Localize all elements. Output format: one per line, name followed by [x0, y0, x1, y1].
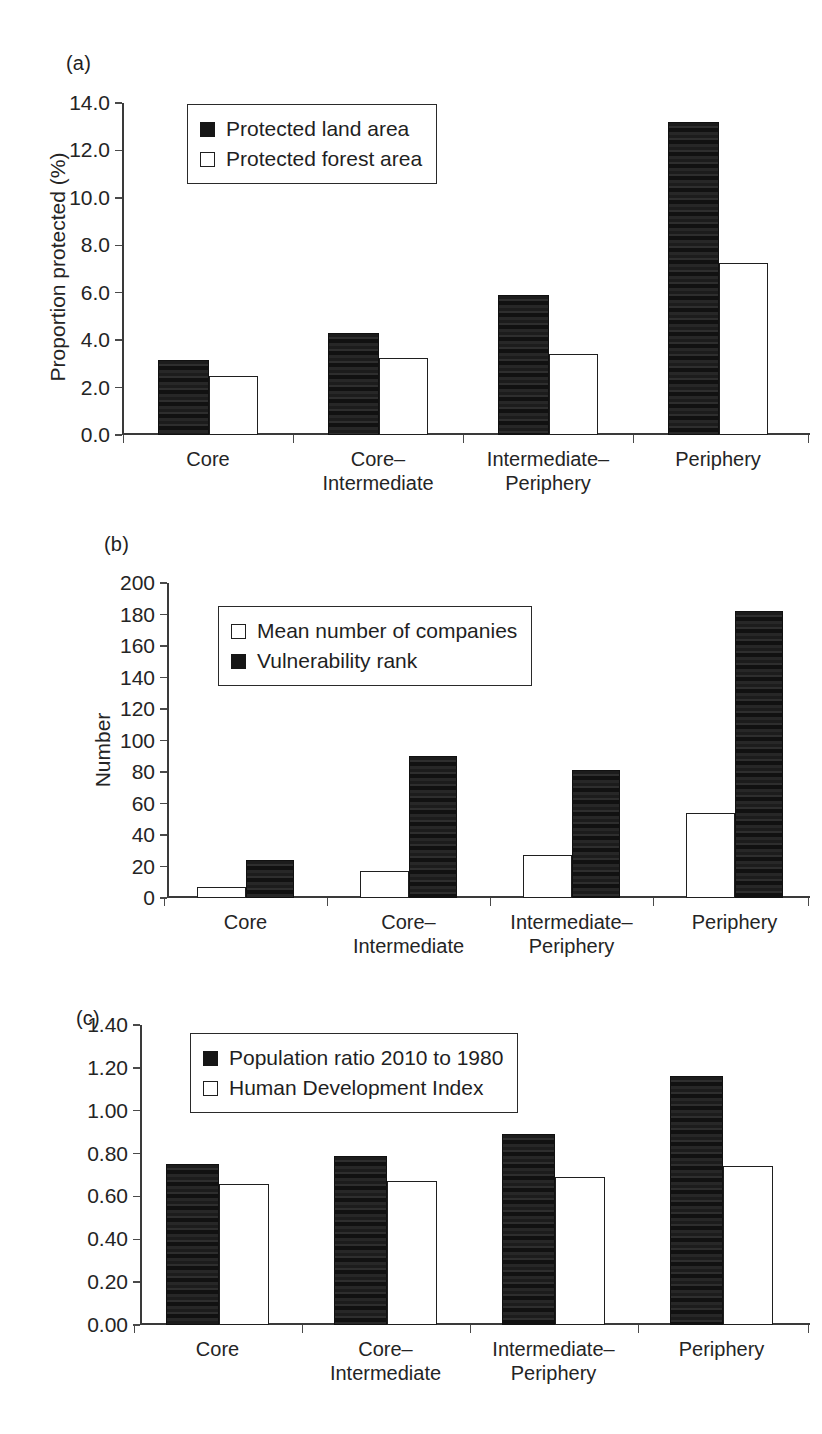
y-axis-tick — [160, 803, 167, 804]
legend-a: Protected land areaProtected forest area — [187, 104, 437, 184]
x-axis-tick — [134, 1325, 135, 1333]
x-axis-tick-end — [808, 435, 809, 443]
y-axis-tick-label: 100 — [120, 729, 155, 753]
bar-light-3 — [686, 813, 735, 898]
bar-light-2 — [523, 855, 572, 898]
bar-dark-0 — [166, 1164, 219, 1325]
bar-light-1 — [360, 871, 409, 898]
x-axis-tick — [470, 1325, 471, 1333]
y-axis-tick — [115, 245, 122, 246]
legend-label: Protected land area — [226, 117, 409, 141]
y-axis-tick — [160, 677, 167, 678]
y-axis-tick-label: 40 — [132, 823, 155, 847]
y-axis-tick-label: 0.80 — [87, 1142, 128, 1166]
y-axis-tick-label: 160 — [120, 634, 155, 658]
legend-item: Human Development Index — [203, 1073, 503, 1103]
y-axis-tick-label: 0 — [143, 886, 155, 910]
y-axis-tick — [133, 1239, 140, 1240]
y-axis-tick — [115, 102, 122, 103]
y-axis-label-b: Number — [91, 685, 115, 815]
y-axis-tick — [115, 434, 122, 435]
y-axis-tick-label: 14.0 — [69, 91, 110, 115]
y-axis-tick-label: 10.0 — [69, 186, 110, 210]
x-axis-tick — [653, 898, 654, 906]
bar-dark-3 — [668, 122, 719, 435]
bar-light-0 — [197, 887, 246, 898]
y-axis-tick — [133, 1110, 140, 1111]
bar-dark-0 — [246, 860, 294, 898]
y-axis-tick-label: 0.0 — [81, 423, 110, 447]
y-axis-label-a: Proportion protected (%) — [46, 102, 70, 432]
x-axis-category-label: Core– Intermediate — [322, 447, 433, 496]
x-axis-tick — [123, 435, 124, 443]
y-axis-tick — [133, 1196, 140, 1197]
legend-label: Protected forest area — [226, 147, 422, 171]
bar-dark-2 — [572, 770, 620, 898]
x-axis-category-label: Core– Intermediate — [353, 910, 464, 959]
bar-light-0 — [219, 1184, 269, 1325]
x-axis-tick — [164, 898, 165, 906]
bar-dark-3 — [735, 611, 783, 898]
y-axis-tick-label: 0.60 — [87, 1184, 128, 1208]
legend-label: Mean number of companies — [257, 619, 517, 643]
y-axis-tick — [115, 339, 122, 340]
bar-light-1 — [379, 358, 428, 435]
legend-c: Population ratio 2010 to 1980Human Devel… — [190, 1033, 518, 1113]
x-axis-category-label: Core– Intermediate — [330, 1337, 441, 1386]
y-axis-tick — [160, 866, 167, 867]
chart-panel-b: (b) Number 020406080100120140160180200Co… — [0, 510, 822, 980]
y-axis-tick-label: 0.00 — [87, 1313, 128, 1337]
y-axis-tick-label: 200 — [120, 571, 155, 595]
y-axis-tick — [115, 150, 122, 151]
y-axis-tick-label: 180 — [120, 603, 155, 627]
panel-label-b: (b) — [104, 533, 129, 556]
y-axis-tick — [115, 387, 122, 388]
x-axis-category-label: Periphery — [679, 1337, 765, 1361]
y-axis-tick-label: 140 — [120, 666, 155, 690]
legend-item: Vulnerability rank — [231, 646, 517, 676]
x-axis-tick — [327, 898, 328, 906]
legend-item: Protected land area — [200, 114, 422, 144]
y-axis-tick-label: 80 — [132, 760, 155, 784]
y-axis-tick — [160, 771, 167, 772]
legend-swatch-dark-icon — [203, 1051, 218, 1066]
legend-item: Mean number of companies — [231, 616, 517, 646]
y-axis-tick — [133, 1067, 140, 1068]
y-axis-line — [122, 103, 124, 435]
x-axis-category-label: Core — [196, 1337, 239, 1361]
bar-dark-1 — [328, 333, 379, 435]
y-axis-tick-label: 60 — [132, 792, 155, 816]
x-axis-tick — [490, 898, 491, 906]
x-axis-tick-end — [808, 1325, 809, 1333]
legend-swatch-light-icon — [203, 1081, 218, 1096]
bar-light-2 — [549, 354, 598, 435]
bar-dark-1 — [409, 756, 457, 898]
legend-label: Vulnerability rank — [257, 649, 417, 673]
legend-item: Population ratio 2010 to 1980 — [203, 1043, 503, 1073]
bar-light-3 — [719, 263, 768, 435]
legend-b: Mean number of companiesVulnerability ra… — [218, 606, 532, 686]
panel-label-a: (a) — [66, 52, 91, 75]
legend-swatch-light-icon — [200, 152, 215, 167]
bar-dark-0 — [158, 360, 209, 435]
x-axis-tick — [293, 435, 294, 443]
x-axis-category-label: Intermediate– Periphery — [487, 447, 609, 496]
x-axis-tick — [302, 1325, 303, 1333]
x-axis-tick — [638, 1325, 639, 1333]
y-axis-tick — [160, 708, 167, 709]
y-axis-tick-label: 1.20 — [87, 1056, 128, 1080]
x-axis-category-label: Intermediate– Periphery — [510, 910, 632, 959]
y-axis-tick-label: 12.0 — [69, 138, 110, 162]
y-axis-tick — [160, 740, 167, 741]
bar-light-2 — [555, 1177, 605, 1325]
x-axis-category-label: Intermediate– Periphery — [492, 1337, 614, 1386]
bar-dark-3 — [670, 1076, 723, 1325]
bar-dark-1 — [334, 1156, 387, 1325]
x-axis-category-label: Periphery — [675, 447, 761, 471]
x-axis-tick — [633, 435, 634, 443]
y-axis-tick — [160, 582, 167, 583]
legend-swatch-dark-icon — [231, 654, 246, 669]
y-axis-tick-label: 0.20 — [87, 1270, 128, 1294]
x-axis-category-label: Periphery — [692, 910, 778, 934]
bar-dark-2 — [498, 295, 549, 435]
